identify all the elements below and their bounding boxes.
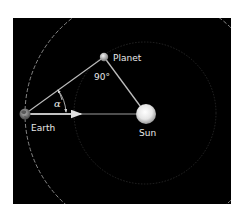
sun-icon bbox=[136, 104, 156, 124]
alpha-label: α bbox=[54, 98, 61, 109]
earth-label: Earth bbox=[31, 123, 55, 133]
elongation-diagram: Planet 90° α Earth Sun bbox=[0, 0, 236, 215]
right-angle-label: 90° bbox=[94, 72, 110, 82]
planet-icon bbox=[100, 53, 108, 61]
planet-label: Planet bbox=[113, 53, 142, 63]
sun-label: Sun bbox=[139, 128, 156, 138]
